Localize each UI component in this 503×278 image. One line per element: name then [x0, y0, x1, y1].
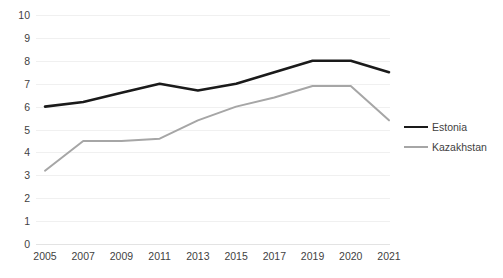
x-axis: 2005200720092011201320152017201920202021	[36, 250, 390, 270]
y-axis-tick-label: 1	[2, 216, 30, 226]
legend-label-kazakhstan: Kazakhstan	[432, 141, 487, 153]
x-axis-tick-label: 2015	[216, 250, 256, 262]
y-axis-tick-label: 3	[2, 170, 30, 180]
x-axis-tick-label: 2009	[101, 250, 141, 262]
y-axis-tick-label: 0	[2, 239, 30, 249]
x-axis-tick-label: 2020	[331, 250, 371, 262]
y-axis: 012345678910	[0, 0, 30, 278]
plot-area	[36, 15, 390, 244]
y-axis-tick-label: 2	[2, 193, 30, 203]
x-axis-tick-label: 2017	[254, 250, 294, 262]
gridline	[36, 244, 390, 245]
legend-line-sample	[404, 146, 428, 148]
legend-item-kazakhstan: Kazakhstan	[404, 137, 503, 157]
legend-item-estonia: Estonia	[404, 117, 503, 137]
legend-line-sample	[404, 126, 428, 129]
y-axis-tick-label: 7	[2, 79, 30, 89]
y-axis-tick-label: 10	[2, 10, 30, 20]
x-axis-tick-label: 2005	[25, 250, 65, 262]
y-axis-tick-label: 9	[2, 33, 30, 43]
y-axis-tick-label: 4	[2, 147, 30, 157]
x-axis-tick-label: 2011	[140, 250, 180, 262]
chart-legend: Estonia Kazakhstan	[404, 117, 503, 157]
y-axis-tick-label: 8	[2, 56, 30, 66]
legend-swatch-estonia	[404, 126, 428, 129]
x-axis-tick-label: 2007	[63, 250, 103, 262]
series-layer	[36, 15, 390, 244]
y-axis-tick-label: 6	[2, 102, 30, 112]
x-axis-tick-label: 2013	[178, 250, 218, 262]
legend-swatch-kazakhstan	[404, 146, 428, 148]
y-axis-tick-label: 5	[2, 125, 30, 135]
line-chart: 012345678910 200520072009201120132015201…	[0, 0, 503, 278]
x-axis-tick-label: 2021	[369, 250, 409, 262]
x-axis-tick-label: 2019	[293, 250, 333, 262]
legend-label-estonia: Estonia	[432, 121, 467, 133]
series-line-estonia	[45, 61, 389, 107]
